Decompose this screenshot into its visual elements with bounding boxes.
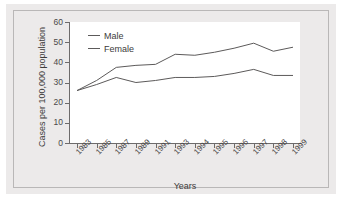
y-tick-label: 60 <box>54 18 63 27</box>
y-tick-label: 40 <box>54 58 63 67</box>
y-tick-label: 10 <box>54 118 63 127</box>
legend-item-male: Male <box>88 30 134 41</box>
y-tick-mark <box>65 123 69 124</box>
y-tick-mark <box>65 83 69 84</box>
y-axis-label: Cases per 100,000 population <box>37 7 47 167</box>
chart-figure: 0102030405060 19831985198719891991199319… <box>0 0 352 213</box>
chart-legend: Male Female <box>88 30 134 56</box>
y-tick-mark <box>65 22 69 23</box>
x-axis-label: Years <box>70 181 300 191</box>
y-tick-label: 20 <box>54 98 63 107</box>
y-tick-label: 30 <box>54 78 63 87</box>
legend-label-female: Female <box>104 44 134 54</box>
legend-item-female: Female <box>88 43 134 54</box>
legend-label-male: Male <box>104 31 124 41</box>
y-tick-mark <box>65 42 69 43</box>
y-tick-mark <box>65 62 69 63</box>
y-tick-mark <box>65 143 69 144</box>
series-line-female <box>77 69 293 90</box>
legend-line-swatch-female <box>88 48 100 49</box>
y-tick-label: 50 <box>54 38 63 47</box>
y-tick-label: 0 <box>58 139 63 148</box>
y-tick-mark <box>65 103 69 104</box>
legend-line-swatch-male <box>88 35 100 36</box>
